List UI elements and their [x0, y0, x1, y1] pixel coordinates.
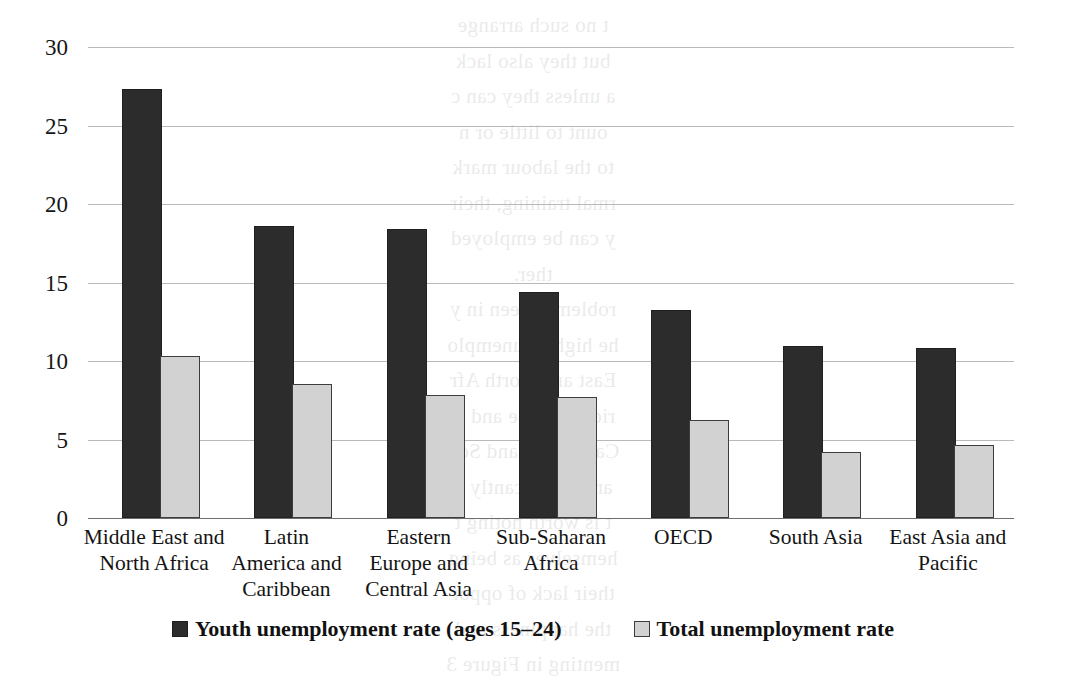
bar-total-unemployment[interactable]	[292, 384, 332, 518]
category-label-line: Africa	[475, 550, 627, 576]
y-axis-tick-label: 25	[45, 114, 68, 137]
x-axis-category-label: East Asia andPacific	[872, 524, 1024, 576]
category-label-line: Latin	[210, 524, 362, 550]
bar-group	[749, 47, 881, 518]
x-axis-category-label: OECD	[607, 524, 759, 550]
category-label-line: Middle East and	[78, 524, 230, 550]
category-label-line: East Asia and	[872, 524, 1024, 550]
legend-item[interactable]: Total unemployment rate	[634, 618, 895, 640]
bar-youth-unemployment[interactable]	[387, 229, 427, 518]
legend-label: Youth unemployment rate (ages 15–24)	[195, 618, 562, 640]
category-label-line: Europe and	[343, 550, 495, 576]
category-label-line: Sub-Saharan	[475, 524, 627, 550]
bar-group	[353, 47, 485, 518]
bar-total-unemployment[interactable]	[425, 395, 465, 518]
y-axis-tick-label: 20	[45, 193, 68, 216]
bar-total-unemployment[interactable]	[689, 420, 729, 518]
bleed-line: menting in Figure 3	[0, 647, 1066, 680]
category-label-line: America and	[210, 550, 362, 576]
bar-youth-unemployment[interactable]	[519, 292, 559, 519]
bar-total-unemployment[interactable]	[821, 452, 861, 518]
y-axis-tick-label: 5	[57, 428, 69, 451]
bar-youth-unemployment[interactable]	[254, 226, 294, 518]
category-label-line: North Africa	[78, 550, 230, 576]
x-axis-category-labels: Middle East andNorth AfricaLatinAmerica …	[88, 524, 1014, 610]
legend-item[interactable]: Youth unemployment rate (ages 15–24)	[172, 618, 562, 640]
category-label-line: South Asia	[739, 524, 891, 550]
bar-youth-unemployment[interactable]	[916, 348, 956, 518]
bar-total-unemployment[interactable]	[160, 356, 200, 518]
category-label-line: OECD	[607, 524, 759, 550]
bar-group	[88, 47, 220, 518]
bar-youth-unemployment[interactable]	[651, 310, 691, 518]
y-axis-tick-label: 10	[45, 350, 68, 373]
x-axis-category-label: Sub-SaharanAfrica	[475, 524, 627, 576]
y-axis-labels: 051015202530	[0, 47, 78, 518]
bar-youth-unemployment[interactable]	[783, 346, 823, 518]
category-label-line: Eastern	[343, 524, 495, 550]
dark-swatch-icon	[172, 621, 188, 637]
x-axis-category-label: Middle East andNorth Africa	[78, 524, 230, 576]
light-swatch-icon	[634, 621, 650, 637]
bar-group	[220, 47, 352, 518]
category-label-line: Central Asia	[343, 576, 495, 602]
y-axis-tick-label: 15	[45, 271, 68, 294]
bar-total-unemployment[interactable]	[557, 397, 597, 518]
bar-group	[882, 47, 1014, 518]
x-axis-category-label: South Asia	[739, 524, 891, 550]
y-axis-tick-label: 0	[57, 507, 69, 530]
bar-group	[485, 47, 617, 518]
x-axis-category-label: EasternEurope andCentral Asia	[343, 524, 495, 602]
category-label-line: Caribbean	[210, 576, 362, 602]
legend-label: Total unemployment rate	[657, 618, 895, 640]
x-axis-category-label: LatinAmerica andCaribbean	[210, 524, 362, 602]
axis-line-zero	[88, 518, 1014, 519]
bar-youth-unemployment[interactable]	[122, 89, 162, 518]
bar-series-container	[88, 47, 1014, 518]
bar-total-unemployment[interactable]	[954, 445, 994, 518]
chart-legend: Youth unemployment rate (ages 15–24)Tota…	[0, 612, 1066, 645]
category-label-line: Pacific	[872, 550, 1024, 576]
y-axis-tick-label: 30	[45, 36, 68, 59]
bar-group	[617, 47, 749, 518]
